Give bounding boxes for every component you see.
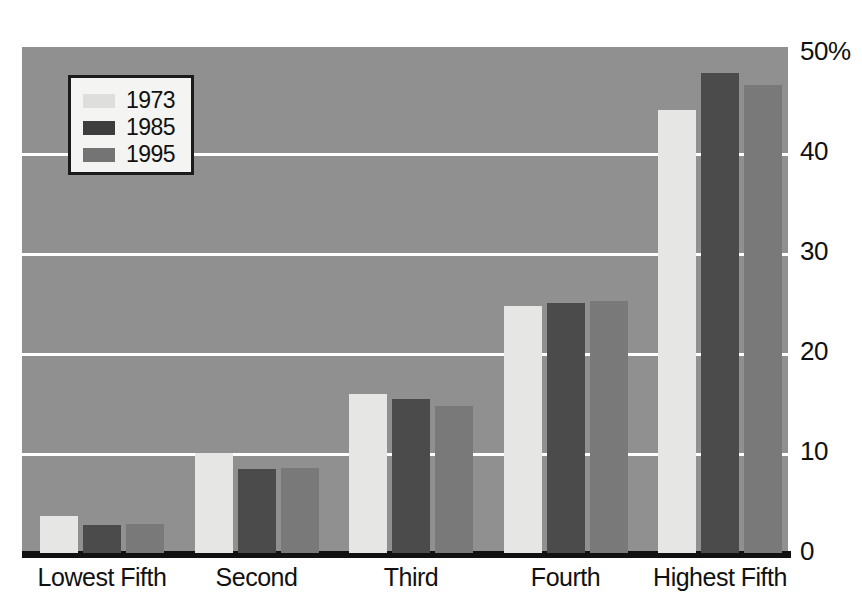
bar-chart: 01020304050% Lowest FifthSecondThirdFour… (0, 0, 862, 611)
legend-swatch-1995 (83, 148, 115, 162)
legend-label-1995: 1995 (126, 143, 175, 166)
legend-label-1973: 1973 (126, 89, 175, 112)
bar-lowest-fifth-1973 (40, 516, 78, 553)
bar-second-1995 (281, 468, 319, 553)
bar-fourth-1973 (504, 306, 542, 553)
bar-third-1985 (392, 399, 430, 553)
legend-swatch-1973 (83, 94, 115, 108)
y-tick-label-40: 40 (800, 136, 856, 167)
bar-highest-fifth-1985 (701, 73, 739, 553)
x-category-label-fourth: Fourth (531, 563, 600, 592)
legend-item: 1995 (83, 141, 191, 168)
bar-second-1985 (238, 469, 276, 553)
legend-item: 1985 (83, 114, 191, 141)
x-category-label-third: Third (384, 563, 438, 592)
y-tick-label-20: 20 (800, 336, 856, 367)
x-category-label-highest-fifth: Highest Fifth (653, 563, 787, 592)
x-category-label-second: Second (216, 563, 298, 592)
bar-third-1995 (435, 406, 473, 553)
y-tick-label-30: 30 (800, 236, 856, 267)
legend-item: 1973 (83, 87, 191, 114)
bar-second-1973 (195, 453, 233, 553)
bar-third-1973 (349, 394, 387, 553)
x-category-label-lowest-fifth: Lowest Fifth (38, 563, 167, 592)
legend: 1973 1985 1995 (68, 75, 194, 175)
legend-label-1985: 1985 (126, 116, 175, 139)
y-tick-label-0: 0 (800, 536, 856, 567)
y-tick-label-10: 10 (800, 436, 856, 467)
bar-lowest-fifth-1985 (83, 525, 121, 553)
y-tick-label-50: 50% (800, 36, 856, 67)
bar-highest-fifth-1973 (658, 110, 696, 553)
bar-highest-fifth-1995 (744, 85, 782, 553)
bar-fourth-1995 (590, 301, 628, 553)
bar-lowest-fifth-1995 (126, 524, 164, 553)
legend-swatch-1985 (83, 121, 115, 135)
bar-fourth-1985 (547, 303, 585, 553)
